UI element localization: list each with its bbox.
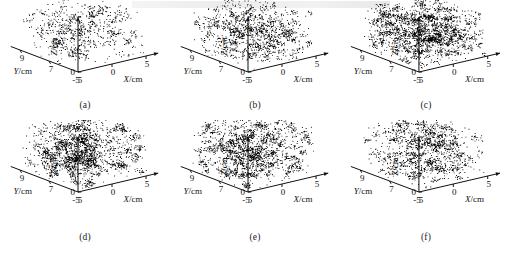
y-axis-label: Y/cm [183, 66, 202, 76]
y-tick-label-5: 5 [78, 75, 83, 85]
z-tick-label-2: 2 [241, 31, 246, 41]
panel-caption-e: (e) [170, 232, 340, 242]
y-axis-label: Y/cm [183, 186, 202, 196]
z-axis-label: Z/cm [390, 37, 400, 56]
y-axis-label: Y/cm [354, 186, 373, 196]
panel-caption-c: (c) [340, 100, 512, 110]
z-tick-label-3: 3 [241, 12, 246, 22]
y-tick-label-7: 7 [49, 184, 54, 194]
x-tick-label-5: 5 [486, 179, 491, 189]
z-tick-label-3: 3 [71, 132, 76, 142]
panel-b: 0123-505579X/cmY/cmZ/cm (b) [170, 0, 340, 120]
x-axis-label: X/cm [292, 74, 312, 84]
x-tick-label-0: 0 [452, 67, 457, 77]
z-tick-label-2: 2 [241, 151, 246, 161]
y-tick-label-7: 7 [219, 184, 224, 194]
z-axis-arrow [76, 17, 80, 21]
z-tick-label-3: 3 [71, 12, 76, 22]
point-cloud [193, 120, 314, 189]
z-tick-label-2: 2 [71, 151, 76, 161]
z-tick-label-1: 1 [71, 169, 76, 179]
x-axis-label: X/cm [122, 74, 142, 84]
z-axis-label: Z/cm [49, 37, 59, 56]
y-tick-label-9: 9 [360, 53, 365, 63]
z-axis-label: Z/cm [49, 157, 59, 176]
y-tick-label-7: 7 [219, 64, 224, 74]
y-tick-label-7: 7 [389, 184, 394, 194]
x-tick-label-0: 0 [281, 187, 286, 197]
y-tick-label-5: 5 [78, 195, 83, 205]
z-tick-label-2: 2 [411, 151, 416, 161]
x-tick-label-5: 5 [145, 59, 150, 69]
x-tick-label-0: 0 [111, 187, 116, 197]
z-tick-label-1: 1 [71, 49, 76, 59]
point-cloud [23, 0, 144, 64]
x-tick-label-0: 0 [452, 187, 457, 197]
x-tick-label-5: 5 [145, 179, 150, 189]
panel-caption-d: (d) [0, 232, 170, 242]
y-tick-label-9: 9 [190, 53, 195, 63]
panel-caption-a: (a) [0, 100, 170, 110]
z-axis-label: Z/cm [390, 157, 400, 176]
y-tick-label-9: 9 [360, 173, 365, 183]
z-axis-label: Z/cm [219, 157, 229, 176]
y-tick-label-7: 7 [49, 64, 54, 74]
z-tick-label-1: 1 [241, 169, 246, 179]
panel-c: 0123-505579X/cmY/cmZ/cm (c) [340, 0, 512, 120]
z-tick-label-1: 1 [411, 169, 416, 179]
x-axis-label: X/cm [122, 194, 142, 204]
panel-caption-f: (f) [340, 232, 512, 242]
z-tick-label-3: 3 [241, 132, 246, 142]
y-axis-label: Y/cm [13, 66, 32, 76]
panel-d: 0123-505579X/cmY/cmZ/cm (d) [0, 120, 170, 262]
y-tick-label-5: 5 [419, 195, 424, 205]
point-cloud [194, 0, 313, 70]
y-tick-label-5: 5 [419, 75, 424, 85]
panel-caption-b: (b) [170, 100, 340, 110]
y-tick-label-5: 5 [248, 75, 253, 85]
x-axis-label: X/cm [464, 194, 484, 204]
panel-f: 0123-505579X/cmY/cmZ/cm (f) [340, 120, 512, 262]
y-tick-label-7: 7 [389, 64, 394, 74]
y-axis-label: Y/cm [354, 66, 373, 76]
figure-panel-grid: 0123-505579X/cmY/cmZ/cm (a) 0123-505579X… [0, 0, 512, 262]
x-tick-label-5: 5 [315, 59, 320, 69]
panel-e: 0123-505579X/cmY/cmZ/cm (e) [170, 120, 340, 262]
x-tick-label-5: 5 [315, 179, 320, 189]
y-tick-label-9: 9 [20, 173, 25, 183]
y-tick-label-5: 5 [248, 195, 253, 205]
z-tick-label-1: 1 [241, 49, 246, 59]
y-tick-label-9: 9 [20, 53, 25, 63]
y-tick-label-9: 9 [190, 173, 195, 183]
x-axis-label: X/cm [292, 194, 312, 204]
z-tick-label-1: 1 [411, 49, 416, 59]
z-tick-label-2: 2 [411, 31, 416, 41]
panel-a: 0123-505579X/cmY/cmZ/cm (a) [0, 0, 170, 120]
z-axis-label: Z/cm [219, 37, 229, 56]
x-axis-label: X/cm [464, 74, 484, 84]
x-tick-label-0: 0 [281, 67, 286, 77]
x-tick-label-0: 0 [111, 67, 116, 77]
y-axis-label: Y/cm [13, 186, 32, 196]
z-tick-label-3: 3 [411, 132, 416, 142]
z-tick-label-2: 2 [71, 31, 76, 41]
z-tick-label-3: 3 [411, 12, 416, 22]
x-tick-label-5: 5 [486, 59, 491, 69]
